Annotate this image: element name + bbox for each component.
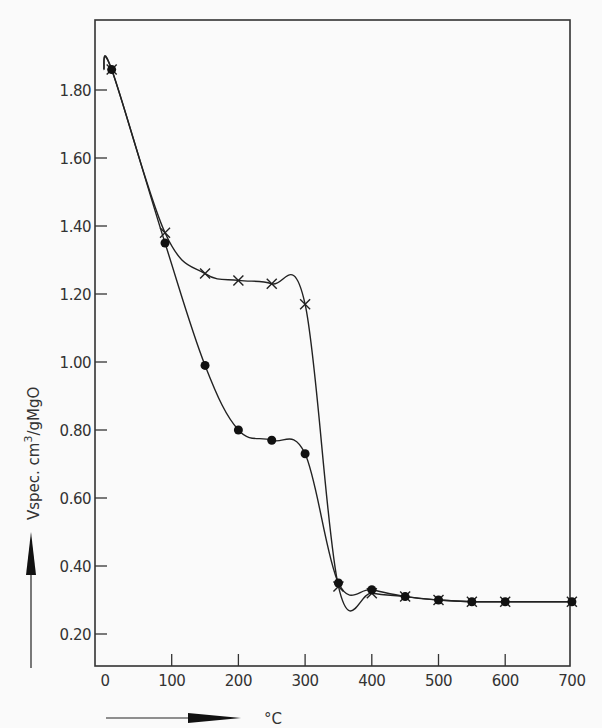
y-tick-label: 0.20 [60,626,91,644]
circle-marker [301,449,310,458]
y-tick-label: 0.80 [60,422,91,440]
y-tick-label: 1.40 [60,218,91,236]
y-tick-label: 1.00 [60,354,91,372]
circle-marker [201,361,210,370]
circle-marker [367,585,376,594]
circle-marker [234,426,243,435]
right-arrow-icon [106,713,241,723]
x-marker [300,299,310,309]
y-axis-ticks: 0.200.400.600.801.001.201.401.601.80 [60,82,107,644]
circle-marker [267,436,276,445]
y-tick-label: 1.80 [60,82,91,100]
y-tick-label: 1.20 [60,286,91,304]
circle-marker [401,592,410,601]
y-axis-title: Vspec. cm3/gMgO [22,387,43,520]
y-axis-title-sup: 3 [22,436,35,443]
circle-marker [334,579,343,588]
circle-marker [467,597,476,606]
x-axis-ticks: 0100200300400500600700 [100,654,585,690]
series-curve-circle [104,56,572,602]
data-curves [104,56,572,611]
x-tick-label: 500 [425,672,452,690]
circle-marker [567,597,576,606]
x-tick-label: 100 [158,672,185,690]
x-tick-label: 0 [100,672,109,690]
y-axis-title-main: Vspec. cm [25,443,43,520]
y-tick-label: 0.40 [60,558,91,576]
y-tick-label: 0.60 [60,490,91,508]
chart: 0.200.400.600.801.001.201.401.601.80 010… [0,0,602,728]
x-tick-label: 200 [225,672,252,690]
y-axis-title-unit: gMgO [25,387,43,431]
x-axis-title: °C [264,710,282,728]
data-markers [107,65,577,607]
x-tick-label: 400 [358,672,385,690]
circle-marker [161,239,170,248]
y-tick-label: 1.60 [60,150,91,168]
circle-marker [434,596,443,605]
svg-text:Vspec. cm3/gMgO: Vspec. cm3/gMgO [22,387,43,520]
x-tick-label: 700 [558,672,585,690]
x-marker [200,269,210,279]
circle-marker [501,597,510,606]
circle-marker [107,65,116,74]
series-curve-x [104,57,572,611]
up-arrow-icon [26,532,36,668]
x-tick-label: 600 [492,672,519,690]
plot-frame [95,20,570,666]
x-tick-label: 300 [292,672,319,690]
